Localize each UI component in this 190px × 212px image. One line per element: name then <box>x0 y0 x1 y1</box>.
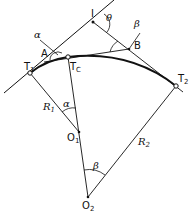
label-beta-top: β <box>133 18 140 29</box>
label-beta-o2: β <box>92 160 99 171</box>
label-alpha-top: α <box>34 29 41 40</box>
diagram-canvas: I θ A α B β T1 TC T2 R1 α O1 R2 β O2 <box>0 0 190 212</box>
compound-curve-diagram: I θ A α B β T1 TC T2 R1 α O1 R2 β O2 <box>0 0 190 212</box>
label-tc: TC <box>69 61 81 74</box>
point-o2 <box>87 196 90 199</box>
back-tangent-line <box>4 0 114 93</box>
label-r1: R1 <box>42 101 55 114</box>
point-i <box>92 21 95 24</box>
radius-o1-tc <box>68 57 88 197</box>
label-b: B <box>134 40 141 51</box>
radius-r2 <box>88 86 176 197</box>
label-r2: R2 <box>137 136 151 149</box>
label-theta: θ <box>106 12 112 23</box>
curve-arc-2 <box>68 56 176 86</box>
label-o1: O1 <box>67 132 79 145</box>
point-t2 <box>174 84 178 88</box>
point-tc <box>66 55 70 59</box>
label-t2: T2 <box>177 73 189 86</box>
point-b <box>128 48 131 51</box>
label-i: I <box>91 8 94 19</box>
label-alpha-o1: α <box>63 98 70 109</box>
beta-arc-b <box>110 41 118 52</box>
label-a: A <box>41 48 48 59</box>
point-o1 <box>78 131 81 134</box>
label-o2: O2 <box>82 200 94 212</box>
